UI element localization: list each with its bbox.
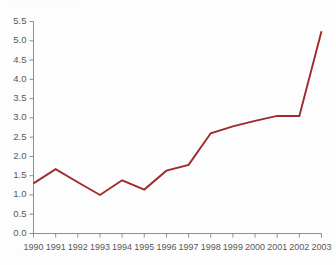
x-tick-label: 1998	[201, 242, 221, 252]
y-tick-label: 2.0	[13, 150, 26, 161]
data-line-series-1	[34, 31, 322, 195]
y-tick-label: 5.0	[13, 34, 26, 45]
x-tick-label: 2002	[289, 242, 309, 252]
x-axis-tick-marks	[34, 234, 322, 238]
y-tick-label: 5.5	[13, 15, 26, 26]
x-tick-label: 2003	[311, 242, 331, 252]
x-tick-label: 2001	[267, 242, 287, 252]
x-tick-label: 1990	[23, 242, 43, 252]
y-tick-label: 1.0	[13, 188, 26, 199]
x-tick-label: 2000	[245, 242, 265, 252]
y-tick-label: 3.0	[13, 111, 26, 122]
y-tick-label: 3.5	[13, 92, 26, 103]
x-tick-label: 1992	[68, 242, 88, 252]
y-axis-tick-marks	[30, 22, 34, 234]
x-tick-label: 1996	[156, 242, 176, 252]
y-tick-label: 0.5	[13, 208, 26, 219]
y-tick-label: 4.5	[13, 54, 26, 65]
y-tick-label: 4.0	[13, 73, 26, 84]
x-tick-label: 1997	[179, 242, 199, 252]
x-tick-label: 1995	[134, 242, 154, 252]
y-tick-label: 1.5	[13, 169, 26, 180]
chart-container: · · · · ·· · ·· ·· 0.00.51.01.52.02.53.0…	[0, 0, 336, 265]
x-axis-tick-labels: 1990199119921993199419951996199719981999…	[23, 242, 331, 252]
line-chart-plot: 0.00.51.01.52.02.53.03.54.04.55.05.5 199…	[0, 0, 336, 265]
y-tick-label: 2.5	[13, 131, 26, 142]
x-tick-label: 1991	[46, 242, 66, 252]
x-tick-label: 1994	[112, 242, 132, 252]
y-axis-tick-labels: 0.00.51.01.52.02.53.03.54.04.55.05.5	[13, 15, 26, 238]
x-tick-label: 1999	[223, 242, 243, 252]
y-tick-label: 0.0	[13, 227, 26, 238]
x-tick-label: 1993	[90, 242, 110, 252]
